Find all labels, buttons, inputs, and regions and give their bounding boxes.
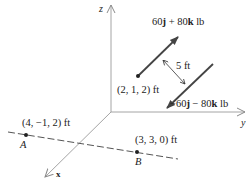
force-label-upper: 60j + 80k lb	[152, 17, 204, 28]
point-b-dot	[135, 150, 139, 154]
application-point-label: (2, 1, 2) ft	[117, 85, 159, 96]
force-lower-prefix: −60	[170, 98, 186, 109]
force-label-lower: −60j − 80k lb	[170, 99, 228, 110]
point-b-coords: (3, 3, 0) ft	[135, 135, 177, 146]
point-a-label: A	[20, 140, 26, 151]
x-axis-label: x	[56, 170, 61, 179]
force-upper-unit: lb	[194, 16, 205, 27]
force-lower-unit: lb	[217, 98, 228, 109]
force-lower-minus: − 80	[190, 98, 212, 109]
point-b-label: B	[135, 157, 141, 168]
force-upper-plus: + 80	[166, 16, 188, 27]
point-a-dot	[24, 133, 28, 137]
application-point-dot	[136, 74, 140, 78]
y-axis-label: y	[241, 118, 245, 128]
point-a-coords: (4, −1, 2) ft	[22, 118, 70, 129]
z-axis-label: z	[99, 4, 103, 14]
force-upper-prefix: 60	[152, 16, 163, 27]
separation-label: 5 ft	[176, 61, 190, 72]
